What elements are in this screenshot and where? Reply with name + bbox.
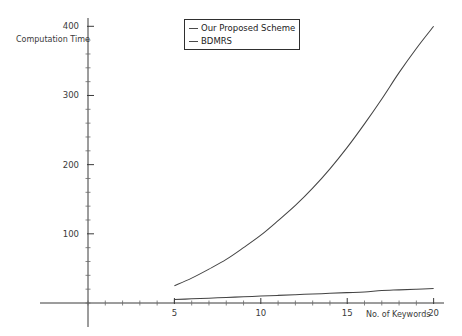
tick-labels-group: 1002003004005101520 — [63, 21, 439, 318]
legend-entry-bdmrs: BDMRS — [189, 35, 295, 48]
x-tick-label: 5 — [172, 308, 177, 318]
legend-entry-label: BDMRS — [201, 35, 232, 48]
x-axis-title: No. of Keywords — [366, 310, 430, 319]
x-axis-ticks — [88, 298, 434, 306]
y-tick-label: 400 — [63, 21, 79, 31]
plot-area: 1002003004005101520 Computation Time No.… — [0, 0, 462, 336]
legend-entry-label: Our Proposed Scheme — [201, 22, 295, 35]
chart-figure: 1002003004005101520 Computation Time No.… — [0, 0, 462, 336]
y-axis-title: Computation Time — [16, 35, 90, 44]
x-tick-label: 10 — [255, 308, 266, 318]
legend-line-icon — [189, 41, 198, 42]
legend-entry-our-proposed-scheme: Our Proposed Scheme — [189, 22, 295, 35]
axes-group — [40, 18, 444, 327]
series-line-bdmrs — [174, 288, 433, 299]
series-line-our-proposed-scheme — [174, 26, 433, 285]
series-group — [174, 26, 433, 303]
legend-line-icon — [189, 28, 198, 29]
y-tick-label: 200 — [63, 160, 79, 170]
y-axis-ticks — [86, 26, 95, 303]
y-tick-label: 100 — [63, 229, 79, 239]
x-tick-label: 15 — [342, 308, 353, 318]
chart-legend: Our Proposed Scheme BDMRS — [184, 19, 300, 50]
y-tick-label: 300 — [63, 90, 79, 100]
